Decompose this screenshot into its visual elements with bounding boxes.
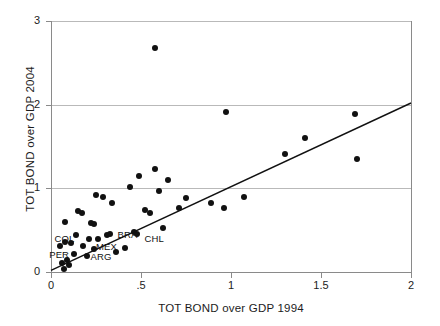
point-label-chl: CHL (145, 234, 164, 244)
data-point (160, 225, 166, 231)
data-point (93, 192, 99, 198)
x-tick-label-1.5: 1.5 (301, 280, 341, 291)
data-point (136, 173, 142, 179)
data-point (62, 219, 68, 225)
data-point (100, 194, 106, 200)
x-tick-1 (231, 273, 232, 278)
data-point (61, 266, 67, 272)
data-point (86, 236, 92, 242)
data-point (57, 243, 63, 249)
data-point (84, 253, 90, 259)
data-point (91, 221, 97, 227)
x-tick-label-2: 2 (391, 280, 431, 291)
x-tick-2 (411, 273, 412, 278)
x-tick-label-1: 1 (211, 280, 251, 291)
right-spine (411, 21, 412, 273)
x-axis-title: TOT BOND over GDP 1994 (51, 302, 411, 314)
data-point (80, 243, 86, 249)
x-tick-1.5 (321, 273, 322, 278)
data-point (302, 135, 308, 141)
data-point (223, 109, 229, 115)
x-tick-label-.5: .5 (121, 280, 161, 291)
data-point (176, 205, 182, 211)
data-point (354, 156, 360, 162)
point-label-col: COL (55, 234, 75, 244)
data-point (152, 45, 158, 51)
data-point (66, 262, 72, 268)
x-tick-0 (51, 273, 52, 278)
data-point (156, 188, 162, 194)
point-label-mex: MEX (96, 242, 117, 252)
x-tick-.5 (141, 273, 142, 278)
data-point (147, 210, 153, 216)
plot-area: BRACHLCOLMEXPERARG (51, 21, 411, 272)
y-axis-title: TOT BOND over GDP 2004 (24, 14, 36, 265)
point-label-arg: ARG (91, 252, 112, 262)
data-point (71, 251, 77, 257)
data-point (59, 260, 65, 266)
data-point (183, 195, 189, 201)
data-point (165, 177, 171, 183)
point-label-bra: BRA (118, 230, 138, 240)
data-point (122, 245, 128, 251)
data-point (107, 231, 113, 237)
data-point (282, 151, 288, 157)
scatter-plot-figure: 01230.511.52 BRACHLCOLMEXPERARG TOT BOND… (0, 0, 440, 326)
point-label-per: PER (49, 250, 69, 260)
data-point (127, 184, 133, 190)
data-point (152, 166, 158, 172)
y-tick-label-0: 0 (14, 266, 40, 277)
data-point (352, 111, 358, 117)
data-point (221, 205, 227, 211)
data-point (208, 200, 214, 206)
data-point (241, 194, 247, 200)
data-point (109, 200, 115, 206)
x-tick-label-0: 0 (31, 280, 71, 291)
data-point (79, 210, 85, 216)
